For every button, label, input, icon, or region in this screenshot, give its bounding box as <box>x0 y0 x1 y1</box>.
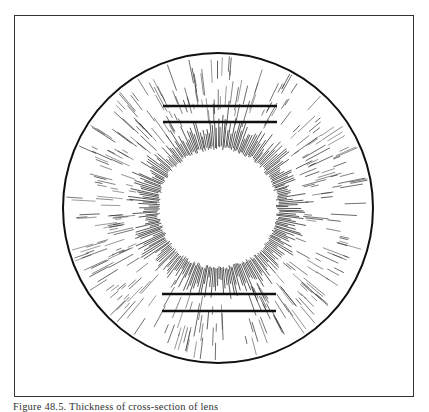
hatch-stroke <box>298 116 315 132</box>
hatch-stroke <box>110 301 125 315</box>
hatch-stroke <box>213 328 214 346</box>
hatch-stroke <box>92 128 115 143</box>
hatch-stroke <box>321 197 333 198</box>
hatch-stroke <box>311 185 319 187</box>
hatch-stroke <box>168 325 175 344</box>
hatch-stroke <box>110 291 118 298</box>
hatch-stroke <box>133 212 157 214</box>
hatch-stroke <box>121 174 135 179</box>
hatch-stroke <box>147 111 155 122</box>
hatch-stroke <box>279 213 296 214</box>
hatch-stroke <box>178 327 181 336</box>
hatch-stroke <box>222 57 223 76</box>
hatch-stroke <box>291 84 297 94</box>
hatch-stroke <box>97 128 113 138</box>
hatch-stroke <box>328 136 345 146</box>
hatch-stroke <box>177 311 183 328</box>
hatch-stroke <box>296 238 306 242</box>
hatch-stroke <box>306 202 314 203</box>
hatch-stroke <box>328 132 343 141</box>
hatch-stroke <box>248 294 256 316</box>
hatch-stroke <box>134 183 161 191</box>
hatch-stroke <box>260 317 266 333</box>
hatch-stroke <box>115 219 121 220</box>
hatch-stroke <box>315 258 321 261</box>
hatch-stroke <box>307 159 318 165</box>
hatch-stroke <box>245 336 247 344</box>
hatch-stroke <box>337 242 362 249</box>
hatch-stroke <box>120 92 136 111</box>
hatch-stroke <box>311 296 317 301</box>
hatch-stroke <box>313 128 320 133</box>
hatch-stroke <box>76 255 92 261</box>
hatch-stroke <box>312 193 331 196</box>
hatch-stroke <box>76 217 87 218</box>
hatch-stroke <box>126 184 133 186</box>
hatch-stroke <box>243 86 247 105</box>
hatch-stroke <box>194 342 197 359</box>
hatch-stroke <box>167 65 176 91</box>
hatch-stroke <box>326 229 340 232</box>
hatch-stroke <box>215 269 216 292</box>
hatch-stroke <box>86 241 106 247</box>
hatch-stroke <box>91 125 105 134</box>
hatch-stroke <box>129 191 136 192</box>
hatch-stroke <box>316 253 338 263</box>
hatch-stroke <box>138 79 148 96</box>
hatch-stroke <box>169 111 173 118</box>
hatch-stroke <box>116 248 122 250</box>
hatch-stroke <box>277 283 284 292</box>
hatch-stroke <box>105 239 125 246</box>
hatch-stroke <box>315 118 320 123</box>
hatch-stroke <box>281 99 287 108</box>
hatch-stroke <box>91 260 109 268</box>
hatch-stroke <box>214 268 215 288</box>
hatch-stroke <box>132 93 138 101</box>
hatch-stroke <box>165 324 169 333</box>
hatch-stroke <box>316 141 322 145</box>
hatch-stroke <box>128 280 136 287</box>
hatch-stroke <box>148 295 156 306</box>
hatch-stroke <box>321 127 334 136</box>
hatch-stroke <box>293 274 310 289</box>
hatch-stroke <box>279 210 304 211</box>
hatch-stroke <box>111 188 119 189</box>
hatch-stroke <box>276 275 284 284</box>
hatch-stroke <box>284 304 292 316</box>
hatch-stroke <box>127 258 139 266</box>
hatch-stroke <box>273 315 282 333</box>
hatch-stroke <box>301 283 312 293</box>
hatch-stroke <box>308 96 321 110</box>
hatch-stroke <box>174 114 177 121</box>
hatch-stroke <box>225 86 226 106</box>
hatch-stroke <box>314 264 324 270</box>
hatch-stroke <box>297 251 310 258</box>
hatch-stroke <box>221 267 222 280</box>
hatch-stroke <box>276 205 298 206</box>
hatch-stroke <box>129 278 142 290</box>
hatch-stroke <box>280 211 306 212</box>
hatch-stroke <box>281 75 291 94</box>
hatch-stroke <box>283 292 293 305</box>
hatch-stroke <box>235 110 236 117</box>
hatch-stroke <box>290 262 308 275</box>
hatch-stroke <box>164 287 175 307</box>
hatch-stroke <box>163 122 170 133</box>
hatch-stroke <box>291 133 297 139</box>
hatch-stroke <box>252 338 257 355</box>
hatch-stroke <box>97 185 107 187</box>
hatch-stroke <box>326 278 338 286</box>
hatch-stroke <box>238 80 242 102</box>
hatch-stroke <box>92 147 98 150</box>
hatch-stroke <box>117 295 122 300</box>
hatch-stroke <box>310 290 328 306</box>
hatch-stroke <box>262 110 265 116</box>
hatch-stroke <box>185 88 192 114</box>
figure-caption: Figure 48.5. Thickness of cross-section … <box>13 401 218 412</box>
hatch-stroke <box>112 129 131 143</box>
hatch-stroke <box>137 142 146 149</box>
hatch-stroke <box>304 215 312 216</box>
hatch-stroke <box>80 214 100 215</box>
hatch-stroke <box>158 86 166 101</box>
hatch-stroke <box>318 172 335 177</box>
